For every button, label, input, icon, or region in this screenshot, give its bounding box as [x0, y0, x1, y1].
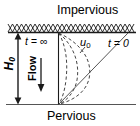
pore-pressure-u0-subscript: 0	[86, 41, 90, 50]
dimension-arrowhead-up	[15, 33, 22, 40]
height-h0-subscript: 0	[7, 57, 17, 62]
time-zero-label: t = 0	[108, 38, 129, 49]
impervious-label: Impervious	[57, 4, 118, 17]
height-h0-symbol: H	[2, 62, 16, 71]
flow-arrowhead	[38, 84, 45, 92]
consolidation-isochrone-figure: Impervious Pervious H0 Flow t = ∞ t = 0 …	[0, 0, 140, 126]
pervious-label: Pervious	[47, 110, 96, 123]
time-infinity-label: t = ∞	[25, 36, 47, 47]
isochrone-curve-1	[59, 33, 67, 104]
pore-pressure-u0-label: u0	[80, 37, 91, 50]
impervious-hatching	[8, 24, 134, 32]
dimension-arrowhead-down	[15, 98, 22, 105]
flow-label: Flow	[27, 56, 38, 81]
height-h0-label: H0	[3, 57, 17, 70]
figure-canvas	[0, 0, 140, 126]
flow-direction-arrow	[38, 58, 45, 92]
